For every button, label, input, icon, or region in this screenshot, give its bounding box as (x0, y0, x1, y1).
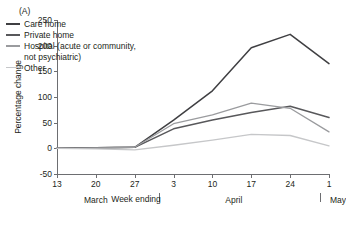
month-separator (320, 193, 321, 202)
x-axis-tick-label: 13 (52, 180, 61, 189)
legend-swatch-line-icon (6, 45, 20, 47)
x-axis-tick-label: 27 (130, 180, 139, 189)
x-axis-tick (329, 174, 330, 178)
legend-item: Private home (6, 30, 136, 41)
x-axis-tick-label: 20 (91, 180, 100, 189)
legend-swatch-line-icon (6, 67, 20, 69)
legend-item: Hospital (acute or community, not psychi… (6, 41, 136, 62)
panel-label: (A) (19, 6, 30, 16)
x-axis-month-label: May (330, 196, 346, 205)
y-axis-tick-label: 0 (47, 144, 52, 153)
legend-item: Care home (6, 19, 136, 30)
legend-swatch-line-icon (6, 34, 20, 36)
y-axis-tick-label: 50 (43, 118, 52, 127)
legend-item-label: Private home (24, 30, 74, 41)
legend-item-label: Other (24, 63, 45, 74)
y-axis-tick-label: 100 (38, 93, 52, 102)
x-axis-tick-label: 24 (285, 180, 294, 189)
x-axis-tick (251, 174, 252, 178)
series-line (57, 103, 329, 148)
chart-legend: Care homePrivate homeHospital (acute or … (6, 19, 136, 74)
x-axis-tick (174, 174, 175, 178)
legend-item-label: Hospital (acute or community, not psychi… (24, 41, 136, 62)
y-axis-tick-label: -50 (40, 170, 52, 179)
x-axis-tick (57, 174, 58, 178)
x-axis-tick (212, 174, 213, 178)
x-axis-tick (135, 174, 136, 178)
legend-item: Other (6, 63, 136, 74)
x-axis-tick-label: 17 (247, 180, 256, 189)
series-line (57, 106, 329, 148)
x-axis-tick-label: 1 (327, 180, 332, 189)
x-axis-line (57, 174, 329, 175)
legend-item-label: Care home (24, 19, 66, 30)
x-axis-tick (96, 174, 97, 178)
x-axis-tick-label: 3 (171, 180, 176, 189)
x-axis-title: Week ending (0, 194, 272, 204)
x-axis-tick (290, 174, 291, 178)
x-axis-tick-label: 10 (208, 180, 217, 189)
legend-swatch-line-icon (6, 23, 20, 25)
